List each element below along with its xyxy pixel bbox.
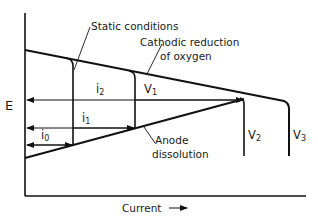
anodic-label-line2: dissolution (152, 149, 209, 160)
cathodic-label-line2: of oxygen (160, 51, 212, 62)
static-conditions-label: Static conditions (91, 21, 178, 32)
diagram-lines (0, 0, 318, 222)
static-leader (74, 27, 90, 70)
cropped-caption (20, 216, 310, 222)
anodic-label: Anode (155, 135, 188, 146)
i1-label: i1 (82, 113, 90, 127)
cathodic-label: Cathodic reduction (140, 37, 239, 48)
polarization-diagram: Static conditions Cathodic reduction of … (0, 0, 318, 222)
x-axis-label: Current (122, 203, 161, 214)
v2-line (240, 98, 244, 156)
v1-label: V1 (144, 84, 157, 98)
anodic-leader (144, 127, 155, 143)
i0-label: i0 (41, 130, 49, 144)
v2-label: V2 (248, 130, 261, 144)
y-axis-label: E (5, 100, 13, 111)
i2-label: i2 (96, 84, 104, 98)
v3-label: V3 (293, 130, 306, 144)
static-vertical-line (66, 58, 73, 145)
